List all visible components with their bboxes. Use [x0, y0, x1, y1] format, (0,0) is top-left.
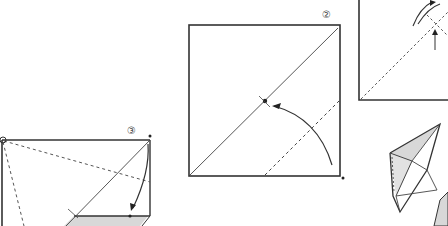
origami-diagram: ② ③ — [0, 0, 448, 226]
step-2: ② — [189, 9, 345, 180]
step-2-number: ② — [322, 9, 331, 20]
step-partial-top-right — [359, 0, 448, 100]
step-3-number: ③ — [127, 125, 136, 136]
step-3: ③ — [0, 125, 152, 226]
step-partial-bottom-right — [390, 124, 448, 226]
